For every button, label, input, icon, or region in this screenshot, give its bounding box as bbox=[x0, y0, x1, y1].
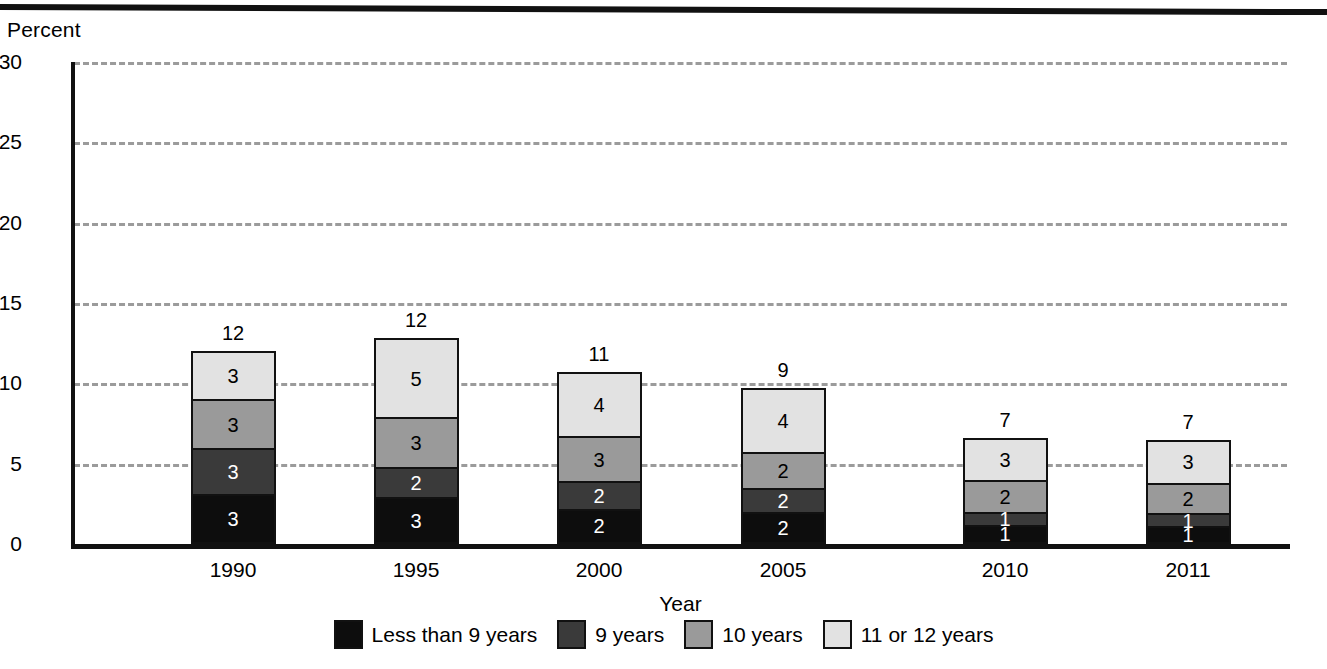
y-axis-title: Percent bbox=[7, 18, 81, 42]
bar-segment[interactable]: 1 bbox=[963, 512, 1048, 525]
bar-segment[interactable]: 2 bbox=[1146, 483, 1231, 514]
bar-stack: 1123 bbox=[1146, 440, 1231, 544]
y-tick-label-10: 10 bbox=[0, 372, 22, 393]
bar-total-label: 11 bbox=[557, 344, 642, 364]
legend-swatch bbox=[684, 620, 713, 649]
bar-segment-value: 1 bbox=[999, 509, 1010, 529]
y-tick-label-15: 15 bbox=[0, 292, 22, 313]
bar-stack: 1123 bbox=[963, 438, 1048, 544]
bar-segment[interactable]: 3 bbox=[963, 438, 1048, 480]
bar-segment[interactable]: 2 bbox=[557, 509, 642, 544]
bar-total-label: 12 bbox=[374, 310, 459, 330]
legend-item-2[interactable]: 10 years bbox=[684, 620, 803, 649]
bar-group-2010[interactable]: 11237 bbox=[963, 62, 1048, 544]
bar-segment-value: 3 bbox=[227, 415, 238, 435]
bar-segment-value: 2 bbox=[777, 491, 788, 511]
y-tick-label-30: 30 bbox=[0, 51, 22, 72]
bar-segment-value: 3 bbox=[1182, 452, 1193, 472]
y-tick-label-25: 25 bbox=[0, 131, 22, 152]
bar-total-label: 7 bbox=[1146, 412, 1231, 432]
bar-segment[interactable]: 2 bbox=[557, 481, 642, 508]
y-tick-label-5: 5 bbox=[0, 453, 22, 474]
bar-segment-value: 3 bbox=[227, 366, 238, 386]
bar-segment-value: 4 bbox=[593, 395, 604, 415]
bar-total-label: 7 bbox=[963, 410, 1048, 430]
legend-item-0[interactable]: Less than 9 years bbox=[334, 620, 538, 649]
bar-segment[interactable]: 3 bbox=[557, 436, 642, 481]
bar-segment[interactable]: 3 bbox=[191, 494, 276, 544]
bar-segment[interactable]: 4 bbox=[741, 388, 826, 452]
top-horizontal-rule bbox=[0, 4, 1327, 15]
bar-group-1995[interactable]: 323512 bbox=[374, 62, 459, 544]
bar-segment-value: 2 bbox=[593, 516, 604, 536]
legend-label: 9 years bbox=[595, 624, 664, 645]
y-axis-line bbox=[71, 62, 75, 544]
bar-stack: 3235 bbox=[374, 338, 459, 544]
legend-label: 10 years bbox=[722, 624, 803, 645]
bar-total-label: 12 bbox=[191, 323, 276, 343]
bar-segment[interactable]: 4 bbox=[557, 372, 642, 436]
bar-segment[interactable]: 3 bbox=[191, 399, 276, 447]
bar-segment-value: 2 bbox=[1182, 489, 1193, 509]
legend-swatch bbox=[334, 620, 363, 649]
bar-segment[interactable]: 2 bbox=[741, 452, 826, 487]
legend-swatch bbox=[823, 620, 852, 649]
legend-label: 11 or 12 years bbox=[861, 624, 994, 645]
bar-stack: 2224 bbox=[741, 388, 826, 544]
bar-segment-value: 3 bbox=[227, 509, 238, 529]
x-tick-label-1990: 1990 bbox=[163, 559, 303, 581]
bar-group-2000[interactable]: 223411 bbox=[557, 62, 642, 544]
x-axis-line bbox=[71, 544, 1290, 549]
bar-segment[interactable]: 3 bbox=[374, 417, 459, 467]
bar-segment-value: 3 bbox=[593, 450, 604, 470]
bar-segment-value: 3 bbox=[410, 511, 421, 531]
bar-segment[interactable]: 5 bbox=[374, 338, 459, 417]
bar-segment[interactable]: 2 bbox=[374, 467, 459, 498]
bar-segment-value: 1 bbox=[1182, 511, 1193, 531]
legend-swatch bbox=[557, 620, 586, 649]
bar-segment-value: 2 bbox=[999, 487, 1010, 507]
bar-segment-value: 3 bbox=[999, 450, 1010, 470]
bar-segment[interactable]: 3 bbox=[374, 497, 459, 544]
x-tick-label-2010: 2010 bbox=[935, 559, 1075, 581]
x-tick-label-2011: 2011 bbox=[1118, 559, 1258, 581]
legend-label: Less than 9 years bbox=[372, 624, 538, 645]
bar-segment[interactable]: 3 bbox=[191, 448, 276, 495]
bar-segment-value: 5 bbox=[410, 369, 421, 389]
bar-segment[interactable]: 2 bbox=[741, 488, 826, 512]
bar-segment-value: 2 bbox=[410, 473, 421, 493]
bar-segment-value: 3 bbox=[410, 433, 421, 453]
bar-segment[interactable]: 3 bbox=[191, 351, 276, 399]
bar-total-label: 9 bbox=[741, 360, 826, 380]
bar-segment-value: 4 bbox=[777, 411, 788, 431]
legend-item-1[interactable]: 9 years bbox=[557, 620, 664, 649]
x-tick-label-1995: 1995 bbox=[346, 559, 486, 581]
bar-segment-value: 2 bbox=[593, 486, 604, 506]
bar-segment-value: 3 bbox=[227, 462, 238, 482]
bar-segment-value: 2 bbox=[777, 518, 788, 538]
x-tick-label-2005: 2005 bbox=[713, 559, 853, 581]
bar-stack: 2234 bbox=[557, 372, 642, 544]
bar-segment[interactable]: 2 bbox=[741, 512, 826, 544]
bar-stack: 3333 bbox=[191, 351, 276, 544]
bar-segment[interactable]: 1 bbox=[1146, 513, 1231, 526]
bar-segment-value: 2 bbox=[777, 461, 788, 481]
y-tick-label-20: 20 bbox=[0, 212, 22, 233]
bar-segment[interactable]: 3 bbox=[1146, 440, 1231, 483]
bar-group-1990[interactable]: 333312 bbox=[191, 62, 276, 544]
x-axis-title: Year bbox=[71, 592, 1290, 616]
legend-item-3[interactable]: 11 or 12 years bbox=[823, 620, 994, 649]
bar-segment[interactable]: 2 bbox=[963, 480, 1048, 512]
y-tick-label-0: 0 bbox=[0, 533, 22, 554]
x-tick-label-2000: 2000 bbox=[529, 559, 669, 581]
plot-area: 302520151050 333312323512223411222491123… bbox=[71, 62, 1290, 544]
chart-legend: Less than 9 years9 years10 years11 or 12… bbox=[0, 620, 1327, 649]
bar-group-2005[interactable]: 22249 bbox=[741, 62, 826, 544]
bar-group-2011[interactable]: 11237 bbox=[1146, 62, 1231, 544]
